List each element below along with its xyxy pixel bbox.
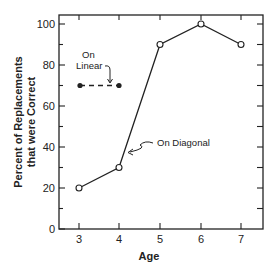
y-ticks-right — [257, 24, 263, 209]
y-tick-label: 80 — [43, 59, 55, 71]
series-on-diagonal-line — [79, 24, 241, 188]
x-tick-label: 5 — [157, 233, 163, 245]
y-tick-label: 0 — [49, 223, 55, 235]
y-tick-label: 40 — [43, 141, 55, 153]
x-tick-label: 4 — [116, 233, 122, 245]
data-point — [76, 185, 82, 191]
data-point — [198, 21, 204, 27]
annotation-arrow-diagonal — [130, 142, 153, 152]
y-ticks-left — [59, 24, 65, 229]
data-point — [77, 83, 82, 88]
x-tick-label: 7 — [238, 233, 244, 245]
y-tick-labels: 0 20 40 60 80 100 — [37, 18, 55, 235]
y-axis-title-line2: that were Correct — [25, 76, 37, 167]
y-tick-label: 100 — [37, 18, 55, 30]
x-axis-title: Age — [139, 250, 160, 262]
y-tick-label: 60 — [43, 100, 55, 112]
annotation-on-linear-line2: Linear — [76, 60, 102, 71]
x-tick-label: 6 — [198, 233, 204, 245]
x-tick-labels: 3 4 5 6 7 — [76, 233, 244, 245]
data-point — [116, 83, 121, 88]
annotation-on-linear-line1: On — [82, 49, 95, 60]
annotation-on-diagonal: On Diagonal — [157, 137, 210, 148]
data-point — [238, 42, 244, 48]
series-on-diagonal-markers — [76, 21, 244, 191]
x-tick-label: 3 — [76, 233, 82, 245]
data-point — [116, 165, 122, 171]
line-chart: 0 20 40 60 80 100 3 4 5 6 7 Age Percent … — [0, 0, 274, 269]
y-tick-label: 20 — [43, 182, 55, 194]
y-axis-title: Percent of Replacements that were Correc… — [12, 56, 37, 187]
y-axis-title-line1: Percent of Replacements — [12, 56, 24, 187]
data-point — [157, 42, 163, 48]
